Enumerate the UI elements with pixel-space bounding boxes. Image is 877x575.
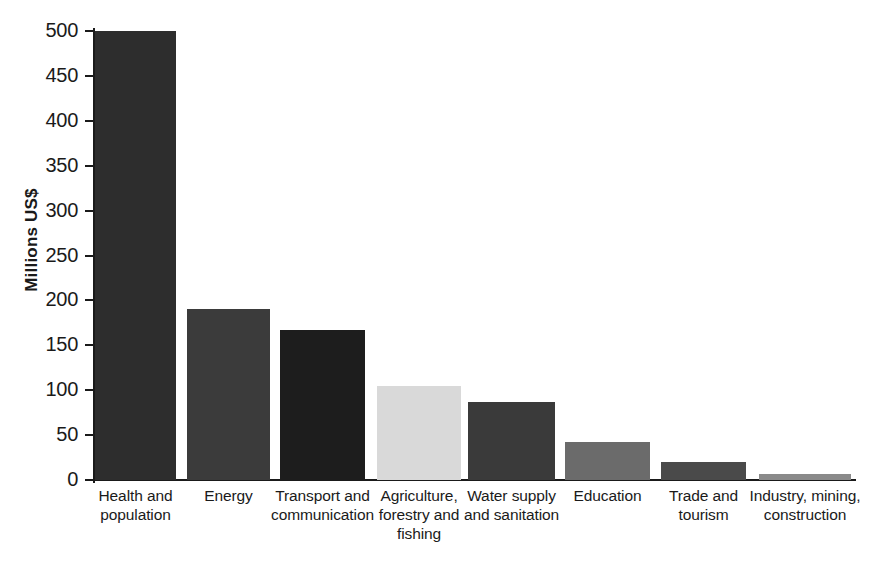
y-axis-title: Millions US$	[22, 130, 42, 350]
x-axis-label: Industry, mining,construction	[741, 486, 869, 524]
y-tick-mark	[85, 299, 94, 301]
bar	[95, 31, 176, 480]
y-tick-label: 50	[56, 422, 78, 446]
y-tick-mark	[85, 210, 94, 212]
y-tick-label: 300	[46, 198, 78, 222]
y-tick-label: 450	[46, 63, 78, 87]
y-tick-label: 400	[46, 108, 78, 132]
bar	[565, 442, 650, 480]
y-tick-mark	[85, 434, 94, 436]
y-tick-mark	[85, 389, 94, 391]
y-tick-mark	[85, 479, 94, 481]
y-tick-label: 150	[46, 332, 78, 356]
plot-area	[94, 31, 856, 480]
x-axis-label-line: Industry, mining,	[741, 486, 869, 505]
y-tick-label: 200	[46, 287, 78, 311]
bar	[661, 462, 746, 480]
y-tick-mark	[85, 30, 94, 32]
x-axis-label-line: and sanitation	[450, 505, 573, 524]
bar	[187, 309, 270, 480]
y-tick-mark	[85, 120, 94, 122]
y-tick-mark	[85, 75, 94, 77]
y-tick-mark	[85, 165, 94, 167]
bar	[377, 386, 461, 480]
y-tick-label: 250	[46, 243, 78, 267]
y-tick-label: 500	[46, 18, 78, 42]
y-tick-label: 350	[46, 153, 78, 177]
bar	[759, 474, 851, 480]
x-axis-label-line: population	[77, 505, 194, 524]
y-tick-mark	[85, 344, 94, 346]
x-axis-label-line: fishing	[359, 524, 479, 543]
bar	[468, 402, 555, 480]
y-tick-label: 100	[46, 377, 78, 401]
bar	[280, 330, 365, 480]
x-axis-label-line: construction	[741, 505, 869, 524]
bar-chart: Millions US$ 500450400350300250200150100…	[0, 0, 877, 575]
y-tick-mark	[85, 255, 94, 257]
